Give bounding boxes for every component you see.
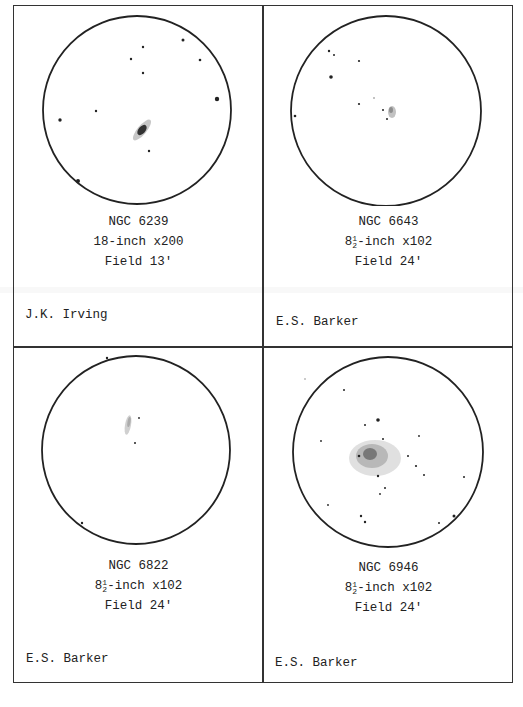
sketch-panel-ngc-6239: NGC 6239 18-inch x200 Field 13' J.K. Irv… [14, 6, 263, 346]
sketch-panel-ngc-6822: NGC 6822 812-inch x102 Field 24' E.S. Ba… [14, 348, 263, 683]
sketch-caption: NGC 6643 812-inch x102 Field 24' [264, 212, 513, 272]
sketch-panel-ngc-6643: NGC 6643 812-inch x102 Field 24' E.S. Ba… [264, 6, 513, 346]
field-of-view: Field 24' [264, 252, 513, 272]
aperture-suffix: -inch x102 [107, 579, 182, 593]
sketch-caption: NGC 6946 812-inch x102 Field 24' [264, 558, 513, 618]
instrument-details: 812-inch x102 [264, 578, 513, 598]
aperture-whole: 8 [95, 579, 103, 593]
instrument-details: 812-inch x102 [264, 232, 513, 252]
object-name: NGC 6822 [14, 556, 263, 576]
object-name: NGC 6643 [264, 212, 513, 232]
object-name: NGC 6946 [264, 558, 513, 578]
eyepiece-field-drawing [14, 6, 263, 206]
sketch-caption: NGC 6239 18-inch x200 Field 13' [14, 212, 263, 272]
aperture-whole: 8 [345, 235, 353, 249]
eyepiece-field-drawing [14, 348, 263, 548]
star-field [81, 357, 140, 524]
observer-name: E.S. Barker [276, 315, 359, 329]
field-of-view: Field 24' [14, 596, 263, 616]
observer-name: E.S. Barker [26, 652, 109, 666]
galaxy-ngc-6239 [130, 117, 154, 143]
instrument-details: 812-inch x102 [14, 576, 263, 596]
eyepiece-field-drawing [264, 6, 513, 206]
field-of-view: Field 13' [14, 252, 263, 272]
galaxy-ngc-6946 [349, 440, 401, 476]
galaxy-ngc-6822 [123, 415, 132, 436]
instrument-details: 18-inch x200 [14, 232, 263, 252]
aperture-suffix: -inch x102 [357, 581, 432, 595]
aperture-suffix: -inch x102 [357, 235, 432, 249]
sketch-panel-ngc-6946: NGC 6946 812-inch x102 Field 24' E.S. Ba… [264, 348, 513, 683]
star-field [294, 50, 388, 120]
sketch-caption: NGC 6822 812-inch x102 Field 24' [14, 556, 263, 616]
field-of-view: Field 24' [264, 598, 513, 618]
observer-name: J.K. Irving [25, 308, 108, 322]
observer-name: E.S. Barker [275, 656, 358, 670]
galaxy-ngc-6643 [388, 106, 396, 118]
object-name: NGC 6239 [14, 212, 263, 232]
aperture-whole: 8 [345, 581, 353, 595]
star-field [58, 39, 219, 184]
eyepiece-field-drawing [264, 348, 513, 548]
